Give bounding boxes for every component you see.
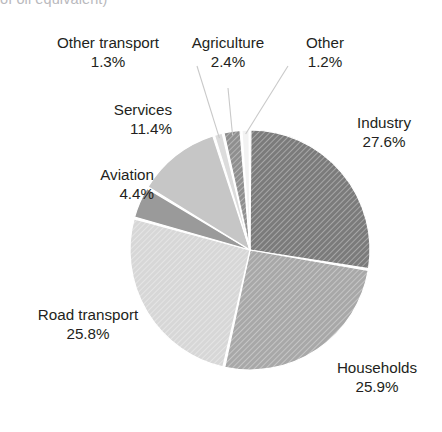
slice-label-aviation-value: 4.4%	[44, 184, 154, 203]
slice-label-services: Services 11.4%	[52, 100, 172, 139]
slice-label-households-name: Households	[316, 358, 438, 377]
pie-chart-figure: of oil equivalent) Other transport 1.3% …	[0, 0, 442, 432]
slice-label-industry-name: Industry	[332, 113, 436, 132]
leader-line-agriculture	[228, 88, 233, 135]
slice-label-road-transport: Road transport 25.8%	[12, 305, 164, 344]
pie-slices-group	[130, 130, 370, 370]
slice-label-aviation: Aviation 4.4%	[44, 165, 154, 204]
slice-label-households: Households 25.9%	[316, 358, 438, 397]
slice-label-industry-value: 27.6%	[332, 132, 436, 151]
leader-line-other	[246, 66, 288, 134]
slice-label-other-transport-value: 1.3%	[38, 52, 178, 71]
slice-label-other: Other 1.2%	[290, 33, 360, 72]
slice-label-agriculture-name: Agriculture	[180, 33, 276, 52]
slice-label-road-transport-name: Road transport	[12, 305, 164, 324]
slice-label-other-transport: Other transport 1.3%	[38, 33, 178, 72]
slice-label-industry: Industry 27.6%	[332, 113, 436, 152]
leader-line-other-transport	[197, 66, 219, 138]
slice-label-agriculture-value: 2.4%	[180, 52, 276, 71]
leader-lines-group	[197, 66, 288, 138]
slice-label-households-value: 25.9%	[316, 377, 438, 396]
slice-label-services-value: 11.4%	[52, 119, 172, 138]
slice-label-agriculture: Agriculture 2.4%	[180, 33, 276, 72]
slice-label-road-transport-value: 25.8%	[12, 324, 164, 343]
slice-label-other-value: 1.2%	[290, 52, 360, 71]
slice-label-services-name: Services	[52, 100, 172, 119]
slice-label-other-name: Other	[290, 33, 360, 52]
slice-label-other-transport-name: Other transport	[38, 33, 178, 52]
slice-label-aviation-name: Aviation	[44, 165, 154, 184]
